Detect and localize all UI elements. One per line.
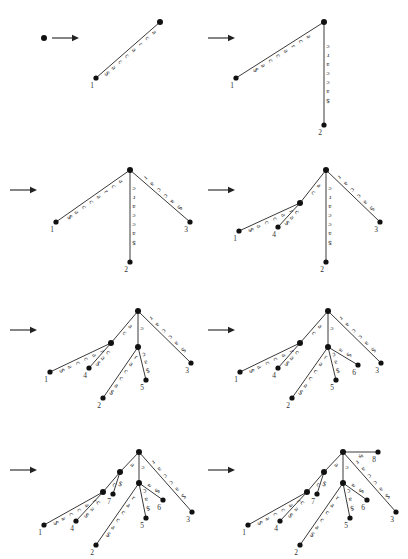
tree-edge: ac	[111, 311, 138, 343]
edge-label-char: $	[117, 480, 123, 489]
tree-leaf-node	[245, 522, 250, 527]
arrow-right-icon	[10, 187, 37, 193]
edge-label-char: a	[255, 364, 264, 371]
tree-leaf-node	[73, 518, 78, 523]
tree-edge: ac	[300, 311, 328, 343]
tree-leaf-node	[297, 542, 302, 547]
suffix-tree-figure: acracca$1acracca$cracca$12acracca$cracca…	[0, 0, 408, 559]
tree-leaf-node	[277, 518, 282, 523]
edge-label-char: c	[142, 351, 147, 360]
arrow-right-icon	[208, 327, 235, 333]
edge-label-char: $	[335, 366, 341, 375]
tree-step-6: acracca$ca$cracca$ca$racca$14253	[44, 308, 193, 410]
edge-label-char: a	[143, 358, 149, 367]
leaf-index-label: 3	[186, 515, 190, 524]
arrow-right-icon	[208, 467, 235, 473]
tree-leaf-node	[237, 369, 242, 374]
tree-edge: c	[328, 311, 334, 347]
edge-label-char: c	[67, 511, 75, 518]
edge-label-char: a	[347, 495, 352, 504]
tree-step-3: acracca$cracca$12	[230, 19, 330, 137]
leaf-index-label: 5	[140, 521, 144, 530]
leaf-index-label: 1	[234, 375, 238, 384]
leaf-index-label: 7	[107, 497, 111, 506]
tree-root-node	[340, 449, 346, 455]
edge-label-char: c	[326, 79, 329, 87]
tree-edge: acracca$	[236, 22, 324, 78]
edge-label-char: a	[326, 88, 330, 96]
tree-leaf-node	[275, 365, 280, 370]
tree-edge: c	[138, 311, 144, 347]
tree-internal-node	[135, 344, 141, 350]
edge-label-char: c	[328, 212, 331, 220]
edge-label-char: $	[145, 366, 151, 375]
edge-label-char: c	[328, 185, 331, 193]
tree-edge: ca$	[139, 483, 151, 518]
tree-edge: ac	[300, 170, 326, 203]
tree-leaf-node	[143, 515, 148, 520]
leaf-index-label: 3	[390, 515, 394, 524]
tree-leaf-node	[110, 491, 115, 496]
leaf-index-label: 8	[372, 455, 376, 464]
tree-edge: acracca$	[96, 22, 160, 78]
arrow-right-icon	[208, 187, 235, 193]
tree-step-2: acracca$1	[90, 19, 163, 90]
leaf-index-label: 2	[97, 401, 101, 410]
tree-root-node	[127, 167, 133, 173]
edge-label-char: a	[255, 223, 264, 230]
tree-edge: cracca$	[324, 22, 330, 125]
edge-label-char: a	[263, 515, 272, 522]
edge-label-char: c	[271, 216, 280, 222]
leaf-index-label: 4	[70, 524, 74, 533]
tree-root-node	[321, 19, 327, 25]
leaf-index-label: 6	[361, 503, 365, 512]
edge-label-char: r	[130, 494, 137, 502]
edge-label-char: c	[75, 506, 83, 513]
tree-step-1	[41, 35, 47, 41]
tree-leaf-node	[143, 377, 148, 382]
tree-leaf-node	[377, 219, 382, 224]
edge-label-char: c	[279, 506, 287, 513]
tree-leaf-node	[189, 509, 194, 514]
tree-leaf-node	[289, 395, 294, 400]
tree-leaf-node	[314, 491, 319, 496]
edge-label-char: c	[326, 70, 329, 78]
tree-edge: cracca$	[326, 170, 332, 262]
edge-label-char: r	[102, 188, 110, 195]
leaf-index-label: 7	[311, 497, 315, 506]
leaf-index-label: 2	[320, 265, 324, 274]
tree-internal-node	[136, 480, 142, 486]
tree-leaf-node	[93, 542, 98, 547]
edge-label-char: $	[326, 97, 330, 105]
tree-root-node	[136, 449, 142, 455]
tree-leaf-node	[188, 360, 193, 365]
edge-label-char: r	[290, 43, 298, 50]
tree-edge: c	[103, 472, 120, 492]
edge-label-char: c	[132, 185, 135, 193]
tree-edge: racca$	[103, 347, 140, 398]
tree-edge: c	[307, 472, 324, 492]
tree-leaf-node	[393, 509, 398, 514]
leaf-index-label: 2	[90, 548, 94, 557]
edge-label-char: $	[321, 480, 327, 489]
leaf-index-label: 1	[230, 81, 234, 90]
tree-leaf-node	[93, 75, 98, 80]
edge-label-char: c	[141, 464, 144, 472]
tree-internal-node	[321, 469, 327, 475]
tree-edge: ca$	[138, 347, 150, 380]
edge-label-char: $	[247, 368, 256, 375]
edge-label-char: $	[357, 454, 365, 458]
tree-internal-node	[297, 340, 303, 346]
tree-leaf-node	[127, 259, 132, 264]
tree-edge: cracca$	[130, 170, 136, 262]
edge-label-char: c	[330, 325, 333, 333]
edge-label-char: r	[132, 194, 135, 202]
tree-leaf-node	[100, 395, 105, 400]
tree-leaf-node	[236, 228, 241, 233]
arrow-right-icon	[10, 467, 37, 473]
leaf-index-label: 3	[185, 366, 189, 375]
tree-internal-node	[325, 344, 331, 350]
tree-internal-node	[108, 340, 114, 346]
leaf-index-label: 1	[38, 528, 42, 537]
edge-label-char: c	[328, 221, 331, 229]
